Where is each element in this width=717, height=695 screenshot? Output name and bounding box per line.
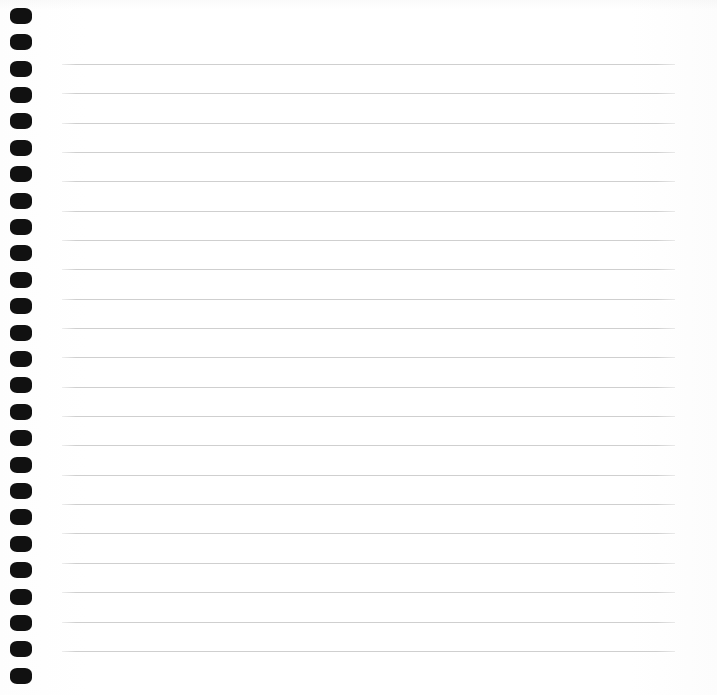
spiral-hole [10,8,32,24]
spiral-hole [10,140,32,156]
spiral-hole [10,430,32,446]
spiral-hole [10,193,32,209]
spiral-hole [10,87,32,103]
spiral-hole [10,298,32,314]
spiral-hole [10,34,32,50]
spiral-hole [10,61,32,77]
spiral-hole [10,325,32,341]
spiral-hole [10,166,32,182]
spiral-hole [10,351,32,367]
spiral-hole [10,272,32,288]
spiral-hole [10,615,32,631]
notebook-page [0,0,717,695]
spiral-hole [10,536,32,552]
spiral-binding [0,0,48,695]
spiral-hole [10,483,32,499]
spiral-hole [10,641,32,657]
spiral-hole [10,668,32,684]
spiral-hole [10,404,32,420]
spiral-hole [10,562,32,578]
spiral-hole [10,219,32,235]
spiral-hole [10,509,32,525]
spiral-hole [10,113,32,129]
spiral-hole [10,377,32,393]
writing-area[interactable] [62,64,675,654]
spiral-hole [10,589,32,605]
spiral-hole [10,245,32,261]
spiral-hole [10,457,32,473]
